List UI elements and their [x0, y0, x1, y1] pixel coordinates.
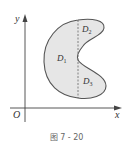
figure-caption: 图 7 - 20	[0, 131, 133, 142]
region-d3-subscript: 3	[90, 81, 93, 87]
x-axis-label: x	[115, 110, 119, 120]
y-axis-arrow-icon	[23, 14, 28, 22]
region-d3-label: D3	[83, 77, 93, 87]
region-d1-label: D1	[57, 54, 67, 64]
region-d2-label: D2	[82, 25, 92, 35]
region-d1-subscript: 1	[64, 58, 67, 64]
origin-label: O	[13, 110, 20, 120]
y-axis-label: y	[15, 14, 19, 24]
region-d2-subscript: 2	[89, 29, 92, 35]
diagram-canvas	[0, 0, 133, 150]
region-d	[44, 19, 106, 98]
